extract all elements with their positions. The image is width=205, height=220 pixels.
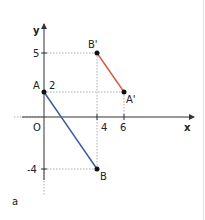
point-a-prime-label: A' (126, 94, 136, 105)
origin-label: O (33, 122, 41, 133)
x-axis-label: x (184, 122, 191, 133)
segment-ab (44, 92, 97, 169)
point-a-label: A (33, 80, 40, 91)
x-tick-4-label: 4 (101, 122, 107, 133)
x-tick-6-label: 6 (120, 122, 126, 133)
tick-marks (41, 53, 124, 169)
y-tick-neg4-label: -4 (27, 164, 37, 175)
coordinate-diagram: y x O 5 2 -4 4 6 A B B' A' a (0, 0, 205, 220)
y-tick-2-label: 2 (49, 80, 55, 91)
point-b (95, 167, 100, 172)
y-tick-5-label: 5 (33, 48, 39, 59)
point-b-prime (95, 51, 100, 56)
point-a (42, 90, 47, 95)
point-b-label: B (100, 171, 107, 182)
point-b-prime-label: B' (88, 39, 98, 50)
figure-label: a (12, 196, 18, 207)
segment-b-prime-a-prime (97, 53, 124, 92)
y-axis-label: y (33, 25, 40, 36)
